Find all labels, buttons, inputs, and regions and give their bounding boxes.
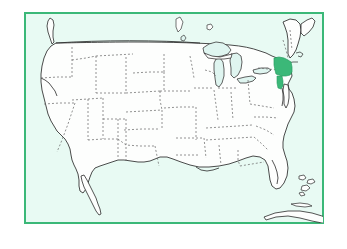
highlighted-state-tail [277,76,283,89]
lake-michigan [214,58,224,87]
map-canvas [0,0,347,249]
us-locator-map [0,0,347,249]
delmarva-peninsula [283,84,289,108]
